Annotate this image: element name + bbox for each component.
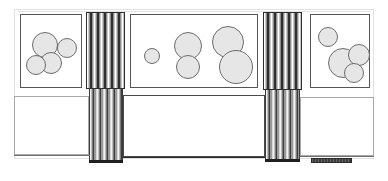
rule-top-datum bbox=[18, 11, 370, 12]
panel-center-lower bbox=[123, 95, 265, 157]
rule-ground-line-left bbox=[14, 155, 90, 156]
bay-center-upper bbox=[130, 14, 258, 88]
glazing-disc bbox=[144, 48, 160, 64]
louvre-left-base-cap-overlay bbox=[89, 160, 123, 163]
louvre-right-upper bbox=[263, 12, 302, 90]
louvre-right-lower-overlay bbox=[265, 90, 300, 162]
glazing-disc bbox=[26, 55, 46, 75]
glazing-disc bbox=[318, 27, 338, 47]
glazing-disc bbox=[176, 55, 200, 79]
glazing-disc bbox=[219, 50, 253, 84]
glazing-disc bbox=[344, 63, 364, 83]
rule-ground-line-right bbox=[300, 156, 374, 157]
plinth-bottom-right bbox=[311, 158, 352, 163]
rule-ground-line-center bbox=[123, 157, 265, 158]
bay-right-upper bbox=[310, 14, 370, 88]
glazing-disc bbox=[57, 38, 77, 58]
louvre-right-base-cap-overlay bbox=[265, 159, 300, 162]
louvre-left-upper bbox=[86, 12, 125, 89]
bay-left-upper bbox=[20, 14, 82, 88]
louvre-left-lower-overlay bbox=[89, 89, 123, 163]
elevation-drawing-canvas bbox=[0, 0, 388, 181]
panel-left-lower bbox=[14, 96, 89, 155]
panel-right-lower bbox=[300, 97, 374, 156]
